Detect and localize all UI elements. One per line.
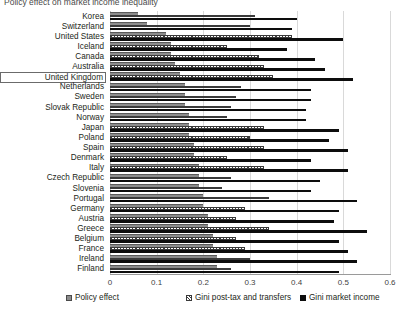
legend-label: Gini post-tax and transfers [195,292,291,304]
legend-item-policy-effect[interactable]: Policy effect [66,292,119,304]
chart-title: Policy effect on market income inequalit… [4,0,264,8]
bar-group [110,203,390,213]
bar-group [110,153,390,163]
category-label-spain: Spain [0,143,104,152]
black-square-swatch [300,295,306,301]
category-label-italy: Italy [0,163,104,172]
plot-area [110,11,390,274]
category-label-belgium: Belgium [0,234,104,243]
category-label-slovenia: Slovenia [0,184,104,193]
category-label-norway: Norway [0,113,104,122]
legend-item-gini-post-tax[interactable]: Gini post-tax and transfers [186,292,291,304]
bar-group [110,21,390,31]
category-label-poland: Poland [0,133,104,142]
bar-group [110,112,390,122]
category-label-france: France [0,244,104,253]
bar-gini-market-income [110,18,297,21]
hatched-square-swatch [186,295,192,301]
category-label-czech-republic: Czech Republic [0,173,104,182]
gray-square-swatch [66,295,72,301]
category-label-korea: Korea [0,12,104,21]
category-label-sweden: Sweden [0,92,104,101]
bar-gini-market-income [110,58,315,61]
bar-group [110,82,390,92]
category-label-australia: Australia [0,62,104,71]
bar-group [110,244,390,254]
bar-group [110,234,390,244]
bar-gini-market-income [110,28,292,31]
bar-gini-market-income [110,200,357,203]
bar-group [110,102,390,112]
x-tick-0.6: 0.6 [375,277,404,288]
x-tick-0.3: 0.3 [235,277,265,288]
x-tick-0.1: 0.1 [142,277,172,288]
legend-item-gini-market-income[interactable]: Gini market income [300,292,380,304]
category-label-germany: Germany [0,204,104,213]
legend-label: Gini market income [309,292,380,304]
bar-gini-market-income [110,129,339,132]
bar-gini-market-income [110,89,311,92]
bar-group [110,132,390,142]
bar-group [110,143,390,153]
bar-gini-market-income [110,38,343,41]
bar-gini-market-income [110,210,339,213]
bar-group [110,31,390,41]
bar-group [110,213,390,223]
bar-group [110,62,390,72]
bar-gini-market-income [110,230,367,233]
category-label-portugal: Portugal [0,194,104,203]
bar-gini-market-income [110,250,348,253]
bar-gini-market-income [110,78,353,81]
category-label-canada: Canada [0,52,104,61]
bar-gini-market-income [110,139,329,142]
bar-group [110,193,390,203]
bar-gini-market-income [110,99,311,102]
x-axis-tick-labels: 00.10.20.30.40.50.6 [0,277,404,289]
bar-group [110,264,390,274]
category-label-ireland: Ireland [0,254,104,263]
x-tick-0.2: 0.2 [188,277,218,288]
chart-legend: Policy effectGini post-tax and transfers… [0,292,404,306]
category-label-denmark: Denmark [0,153,104,162]
bar-gini-market-income [110,119,306,122]
category-axis-labels: KoreaSwitzerlandUnited StatesIcelandCana… [0,11,107,274]
bar-group [110,163,390,173]
category-label-finland: Finland [0,264,104,273]
category-label-greece: Greece [0,224,104,233]
x-tick-0.5: 0.5 [328,277,358,288]
x-tick-0.4: 0.4 [282,277,312,288]
bar-gini-market-income [110,180,320,183]
bar-group [110,72,390,82]
bar-gini-market-income [110,169,348,172]
gridline-0.6 [390,11,391,274]
bar-group [110,173,390,183]
bar-group [110,51,390,61]
bar-group [110,41,390,51]
category-label-united-states: United States [0,32,104,41]
bar-group [110,183,390,193]
bar-gini-market-income [110,159,311,162]
bar-gini-market-income [110,149,348,152]
bar-group [110,254,390,264]
legend-label: Policy effect [75,292,119,304]
bar-gini-market-income [110,190,311,193]
category-label-iceland: Iceland [0,42,104,51]
bar-gini-market-income [110,109,306,112]
bar-gini-market-income [110,68,325,71]
x-tick-0: 0 [95,277,125,288]
bar-group [110,11,390,21]
category-label-japan: Japan [0,123,104,132]
bar-group [110,122,390,132]
bar-gini-market-income [110,220,334,223]
oecd-inequality-bar-chart: Policy effect on market income inequalit… [0,0,404,309]
category-label-switzerland: Switzerland [0,22,104,31]
x-axis-line [110,274,391,275]
category-label-slovak-republic: Slovak Republic [0,103,104,112]
category-label-austria: Austria [0,214,104,223]
bar-gini-market-income [110,271,339,274]
category-label-netherlands: Netherlands [0,82,104,91]
bar-group [110,92,390,102]
bar-gini-market-income [110,48,287,51]
bar-gini-market-income [110,260,357,263]
bar-gini-market-income [110,240,339,243]
